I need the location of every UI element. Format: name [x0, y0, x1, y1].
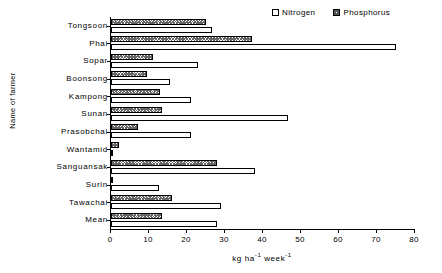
bar-nitrogen-mean [111, 221, 217, 227]
swatch-empty-icon [272, 9, 279, 16]
bar-phosphorus-boonsong [111, 71, 147, 77]
category-label-kampong: Kampong [69, 92, 108, 101]
chart-legend: Nitrogen Phosphorus [272, 8, 390, 17]
x-axis-tick [110, 229, 111, 233]
category-label-phai: Phai [89, 39, 108, 48]
bar-nitrogen-tawachai [111, 203, 221, 209]
x-axis-label-unit: kg ha [232, 254, 255, 263]
x-axis-label: kg ha-1 week-1 [110, 252, 414, 263]
x-axis-tick [414, 229, 415, 233]
bar-phosphorus-tongsoon [111, 19, 206, 25]
bar-phosphorus-sanguansak [111, 160, 217, 166]
bar-nitrogen-prasobchai [111, 132, 191, 138]
category-label-mean: Mean [85, 215, 108, 224]
bar-group-sunan [111, 105, 414, 123]
bar-group-wantamid [111, 141, 414, 159]
category-label-sunan: Sunan [81, 109, 108, 118]
bar-group-tawachai [111, 194, 414, 212]
bar-nitrogen-wantamid [111, 150, 113, 156]
bar-phosphorus-kampong [111, 89, 160, 95]
legend-label-phosphorus: Phosphorus [343, 8, 390, 17]
bar-phosphorus-wantamid [111, 142, 119, 148]
category-label-sopar: Sopar [83, 56, 108, 65]
bar-chart: Nitrogen Phosphorus Name of farmer Tongs… [0, 0, 442, 273]
bar-nitrogen-phai [111, 44, 396, 50]
bar-group-kampong [111, 88, 414, 106]
category-label-prasobchai: Prasobchai [61, 127, 108, 136]
category-label-sanguansak: Sanguansak [57, 162, 108, 171]
bar-phosphorus-sopar [111, 54, 153, 60]
plot-area [110, 17, 414, 229]
x-axis-tick-label: 20 [174, 235, 198, 244]
x-axis-label-per: week [261, 254, 285, 263]
bar-nitrogen-sunan [111, 115, 288, 121]
x-axis-tick-label: 40 [250, 235, 274, 244]
bar-group-sopar [111, 52, 414, 70]
x-axis-tick-label: 30 [212, 235, 236, 244]
x-axis-tick [224, 229, 225, 233]
x-axis-tick [186, 229, 187, 233]
bar-group-boonsong [111, 70, 414, 88]
y-axis-tick-labels: TongsoonPhaiSoparBoonsongKampongSunanPra… [0, 17, 108, 229]
bar-phosphorus-tawachai [111, 195, 172, 201]
category-label-surin: Surin [86, 180, 108, 189]
x-axis-tick-label: 10 [136, 235, 160, 244]
legend-item-phosphorus: Phosphorus [333, 8, 390, 17]
category-label-wantamid: Wantamid [67, 145, 108, 154]
bar-group-phai [111, 35, 414, 53]
x-axis-tick-label: 50 [288, 235, 312, 244]
x-axis-label-sup2: -1 [285, 252, 292, 258]
bar-group-surin [111, 176, 414, 194]
bar-group-tongsoon [111, 17, 414, 35]
x-axis-tick [300, 229, 301, 233]
x-axis-tick-label: 0 [98, 235, 122, 244]
bar-nitrogen-sopar [111, 62, 198, 68]
bar-nitrogen-surin [111, 185, 159, 191]
category-label-tawachai: Tawachai [69, 198, 108, 207]
x-axis-tick-label: 60 [326, 235, 350, 244]
bar-nitrogen-boonsong [111, 79, 170, 85]
legend-label-nitrogen: Nitrogen [282, 8, 315, 17]
category-label-tongsoon: Tongsoon [68, 21, 108, 30]
bar-group-mean [111, 211, 414, 229]
x-axis-tick-label: 80 [402, 235, 426, 244]
bar-phosphorus-sunan [111, 107, 162, 113]
x-axis-tick [262, 229, 263, 233]
bar-nitrogen-tongsoon [111, 27, 212, 33]
category-label-boonsong: Boonsong [66, 74, 108, 83]
x-axis-tick [376, 229, 377, 233]
x-axis-tick [338, 229, 339, 233]
x-axis-tick [148, 229, 149, 233]
bar-phosphorus-mean [111, 213, 162, 219]
bar-group-prasobchai [111, 123, 414, 141]
bar-phosphorus-prasobchai [111, 124, 138, 130]
bar-phosphorus-surin [111, 177, 113, 183]
bar-nitrogen-sanguansak [111, 168, 255, 174]
bar-nitrogen-kampong [111, 97, 191, 103]
bar-phosphorus-phai [111, 36, 252, 42]
swatch-hatched-icon [333, 9, 340, 16]
bar-group-sanguansak [111, 158, 414, 176]
x-axis-tick-label: 70 [364, 235, 388, 244]
legend-item-nitrogen: Nitrogen [272, 8, 315, 17]
